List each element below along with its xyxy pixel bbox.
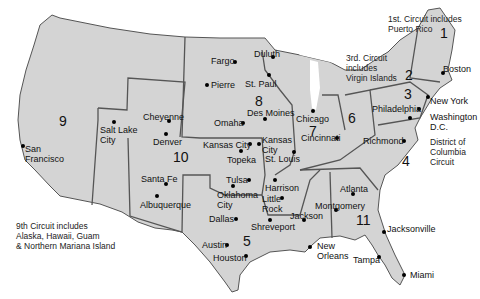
note-third-circuit: 3rd. Circuit includes Virgin Islands (346, 53, 397, 83)
city-label-st-paul: St. Paul (245, 79, 277, 89)
circuit-2-label: 2 (405, 68, 413, 82)
circuit-8-label: 8 (255, 94, 263, 108)
circuit-10-label: 10 (173, 150, 189, 164)
city-label-duluth: Duluth (254, 49, 280, 59)
note-first-circuit: 1st. Circuit includes Puerto Rico (388, 14, 462, 34)
city-label-denver: Denver (153, 137, 182, 147)
city-label-philadelphia: Philadelphia (372, 104, 421, 114)
circuit-6-label: 6 (348, 111, 356, 125)
city-label-little-rock: Little Rock (262, 194, 283, 214)
city-label-santa-fe: Santa Fe (141, 174, 178, 184)
city-label-chicago: Chicago (296, 114, 329, 124)
city-label-salt-lake-city: Salt Lake City (100, 125, 138, 145)
city-marker-miami (402, 273, 406, 277)
city-label-boston: Boston (443, 64, 471, 74)
city-label-jacksonville: Jacksonville (387, 224, 436, 234)
city-marker-new-orleans (308, 245, 312, 249)
city-marker-dallas (234, 217, 238, 221)
city-label-jackson: Jackson (290, 211, 323, 221)
note-dc-circuit: District of Columbia Circuit (430, 137, 466, 167)
city-label-houston: Houston (213, 253, 247, 263)
city-label-dallas: Dallas (209, 214, 234, 224)
circuit-3-label: 3 (404, 87, 412, 101)
city-label-washington-d-c-: Washington D.C. (430, 112, 477, 132)
city-marker-st-paul (267, 73, 271, 77)
city-marker-harrison (273, 178, 277, 182)
city-label-harrison: Harrison (265, 183, 299, 193)
city-label-tulsa: Tulsa (226, 175, 248, 185)
city-label-shreveport: Shreveport (251, 222, 295, 232)
city-marker-kansas-city (257, 142, 261, 146)
city-label-cheyenne: Cheyenne (143, 112, 184, 122)
city-label-richmond: Richmond (363, 136, 404, 146)
circuit-9-label: 9 (59, 114, 67, 128)
city-label-san-francisco: San Francisco (25, 144, 64, 164)
circuit-5-label: 5 (243, 234, 251, 248)
city-marker-chicago (311, 109, 315, 113)
city-label-topeka: Topeka (227, 155, 256, 165)
city-marker-albuquerque (155, 194, 159, 198)
city-label-pierre: Pierre (211, 80, 235, 90)
city-marker-topeka (239, 149, 243, 153)
city-label-montgomery: Montgomery (315, 201, 365, 211)
city-marker-oklahoma-city (231, 184, 235, 188)
circuit-11-label: 11 (356, 213, 371, 227)
city-marker-washington-d-c- (408, 116, 412, 120)
city-label-albuquerque: Albuquerque (140, 200, 191, 210)
city-label-miami: Miami (410, 270, 434, 280)
note-ninth-circuit: 9th Circuit includes Alaska, Hawaii, Gua… (16, 221, 115, 251)
city-marker-salt-lake-city (112, 120, 116, 124)
city-label-kansas-city: Kansas City (262, 135, 292, 155)
city-label-st-louis: St. Louis (265, 154, 300, 164)
city-label-des-moines: Des Moines (247, 108, 295, 118)
circuit-4-label: 4 (402, 154, 410, 168)
city-label-austin: Austin (202, 240, 227, 250)
city-label-omaha: Omaha (214, 118, 244, 128)
city-label-tampa: Tampa (353, 255, 380, 265)
city-label-fargo: Fargo (211, 56, 235, 66)
city-label-atlanta: Atlanta (340, 184, 368, 194)
city-label-kansas-city: Kansas City (203, 140, 251, 150)
city-label-new-orleans: New Orleans (317, 241, 349, 261)
city-marker-jacksonville (382, 230, 386, 234)
city-label-new-york: New York (430, 96, 468, 106)
city-label-oklahoma-city: Oklahoma City (217, 190, 258, 210)
city-marker-denver (164, 132, 168, 136)
city-marker-pierre (205, 83, 209, 87)
city-label-cincinnati: Cincinnati (301, 133, 341, 143)
